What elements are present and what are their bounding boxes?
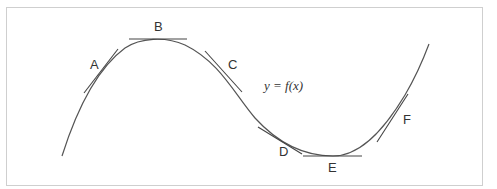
label-e: E [328, 160, 337, 175]
label-b: B [154, 19, 163, 34]
label-a: A [90, 57, 99, 72]
label-c: C [228, 57, 237, 72]
label-d: D [279, 144, 288, 159]
function-curve [62, 39, 429, 156]
curve-diagram: A B C D E F y = f(x) [0, 0, 497, 189]
equation-label: y = f(x) [262, 78, 303, 93]
label-f: F [403, 112, 411, 127]
